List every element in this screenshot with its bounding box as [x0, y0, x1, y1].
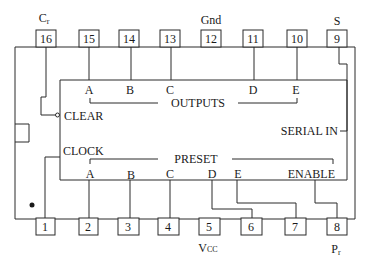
preset-a: A [86, 167, 95, 181]
bottom-pins: 1 2 3 4 5 6 7 8 VCC Pr [36, 218, 347, 257]
pin-number: 9 [334, 32, 340, 46]
outputs-group-label: OUTPUTS [171, 96, 225, 110]
preset-e: E [234, 167, 241, 181]
preset-b: B [127, 168, 135, 182]
clock-label: CLOCK [63, 144, 104, 158]
ic-pinout-diagram: 16 15 14 13 12 11 10 9 Cr Gnd S 1 2 3 4 … [0, 0, 382, 267]
preset-d: D [208, 167, 217, 181]
pin1-indicator-dot [30, 203, 35, 208]
package-notch [15, 124, 29, 142]
output-a: A [85, 83, 94, 97]
output-c: C [166, 83, 174, 97]
top-pins: 16 15 14 13 12 11 10 9 Cr Gnd S [36, 11, 347, 47]
output-e: E [292, 83, 299, 97]
preset-wires [89, 180, 337, 218]
clear-label: CLEAR [64, 109, 103, 123]
preset-group-label: PRESET [174, 152, 218, 166]
pin-number: 8 [334, 220, 340, 234]
serial-in-wire [339, 47, 347, 131]
pin-number: 4 [165, 220, 171, 234]
preset-bracket-right [232, 159, 333, 164]
pin-number: 2 [85, 220, 91, 234]
output-b: B [126, 83, 134, 97]
output-wires [89, 47, 297, 103]
pin-5-label: VCC [198, 241, 217, 255]
pin-12-label: Gnd [201, 13, 222, 27]
pin-9-label: S [334, 14, 341, 28]
pin-number: 7 [292, 220, 298, 234]
serial-in-label: SERIAL IN [281, 124, 339, 138]
preset-c: C [166, 167, 174, 181]
pin-number: 10 [291, 32, 303, 46]
enable-label: ENABLE [288, 167, 335, 181]
clear-wire [41, 47, 60, 117]
clock-wire [45, 157, 60, 218]
pin-number: 14 [123, 32, 135, 46]
pin-number: 11 [247, 32, 259, 46]
pin-number: 13 [164, 32, 176, 46]
pin-number: 15 [83, 32, 95, 46]
pin-number: 5 [206, 220, 212, 234]
output-d: D [249, 83, 258, 97]
pin-number: 3 [125, 220, 131, 234]
pin-number: 6 [248, 220, 254, 234]
clear-inversion-bubble [56, 113, 60, 117]
pin-number: 16 [40, 32, 52, 46]
pin-16-label: Cr [39, 11, 50, 26]
preset-bracket-left [90, 159, 158, 164]
pin-number: 1 [42, 220, 48, 234]
pin-number: 12 [205, 32, 217, 46]
pin-8-label: Pr [331, 242, 341, 257]
